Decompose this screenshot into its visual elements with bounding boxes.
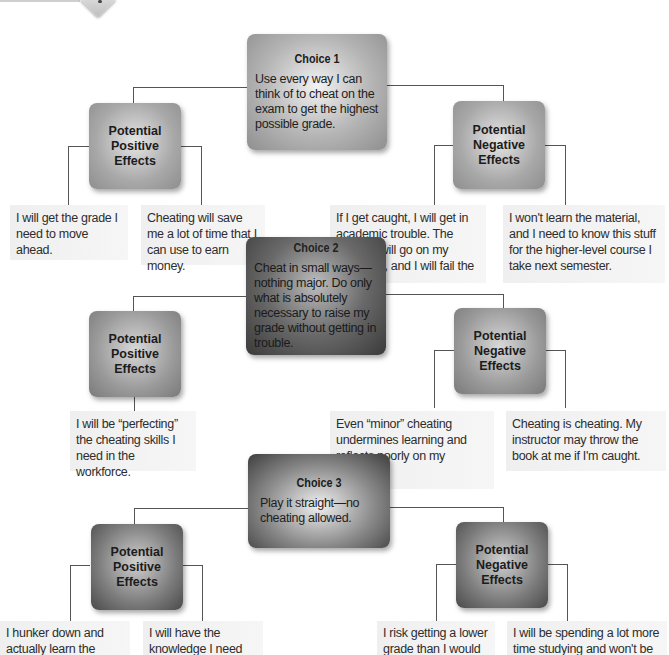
connector-line: [133, 87, 247, 88]
choice-description: Use every way I can think of to cheat on…: [255, 72, 379, 132]
effect-label: Effects: [116, 575, 158, 590]
effect-label: Positive: [111, 139, 159, 154]
connector-line: [180, 565, 202, 566]
effect-label: Potential: [111, 545, 164, 560]
connector-line: [503, 294, 504, 308]
effect-label: Effects: [479, 359, 521, 374]
connector-line: [202, 565, 203, 622]
connector-line: [434, 145, 454, 146]
effect-label: Potential: [109, 332, 162, 347]
connector-line: [70, 565, 71, 622]
choice-title: Choice 1: [294, 52, 339, 66]
effect-label: Potential: [476, 543, 529, 558]
connector-line: [134, 508, 248, 509]
connector-line: [503, 507, 504, 522]
negative-effects-box: Potential Negative Effects: [454, 308, 546, 394]
negative-effect-note: I won't learn the material, and I need t…: [503, 205, 665, 283]
connector-line: [180, 146, 202, 147]
effect-label: Effects: [481, 573, 523, 588]
connector-line: [436, 564, 437, 621]
negative-effect-note: Cheating is cheating. My instructor may …: [506, 411, 666, 471]
choice-2-box: Choice 2 Cheat in small ways—nothing maj…: [246, 237, 386, 355]
effect-label: Positive: [113, 560, 161, 575]
positive-effect-note: I will be “perfecting” the cheating skil…: [70, 411, 196, 471]
effect-label: Positive: [111, 347, 159, 362]
effect-label: Potential: [474, 329, 527, 344]
positive-effect-note: I will get the grade I need to move ahea…: [10, 205, 128, 260]
connector-line: [385, 85, 503, 86]
connector-line: [434, 145, 435, 205]
connector-line: [436, 564, 456, 565]
negative-effects-box: Potential Negative Effects: [456, 522, 548, 608]
connector-line: [68, 146, 69, 206]
negative-effect-note: I will be spending a lot more time study…: [507, 621, 667, 655]
connector-line: [68, 146, 90, 147]
effect-label: Effects: [114, 154, 156, 169]
connector-line: [567, 564, 568, 621]
connector-line: [546, 564, 567, 565]
connector-line: [388, 507, 503, 508]
connector-line: [385, 294, 503, 295]
connector-line: [133, 87, 134, 103]
positive-effects-box: Potential Positive Effects: [89, 103, 181, 189]
choice-description: Play it straight—no cheating allowed.: [256, 496, 382, 526]
effect-label: Negative: [473, 138, 525, 153]
effect-label: Effects: [114, 362, 156, 377]
connector-line: [70, 565, 90, 566]
connector-line: [545, 145, 565, 146]
positive-effect-note: I will have the knowledge I need for cou…: [143, 621, 263, 655]
connector-line: [201, 146, 202, 206]
effect-label: Negative: [476, 558, 528, 573]
connector-line: [133, 296, 134, 311]
effect-label: Potential: [473, 123, 526, 138]
choice-title: Choice 3: [296, 476, 341, 490]
connector-line: [545, 350, 565, 351]
effect-label: Potential: [109, 124, 162, 139]
negative-effects-box: Potential Negative Effects: [453, 101, 545, 189]
negative-effect-note: I risk getting a lower grade than I woul…: [377, 621, 495, 655]
positive-effects-box: Potential Positive Effects: [91, 524, 183, 610]
top-rule: [0, 0, 80, 2]
diamond-dot-icon: [98, 0, 102, 3]
connector-line: [134, 508, 135, 524]
positive-effects-box: Potential Positive Effects: [89, 311, 181, 397]
choice-3-box: Choice 3 Play it straight—no cheating al…: [248, 454, 390, 548]
choice-title: Choice 2: [293, 241, 338, 255]
connector-line: [133, 296, 247, 297]
effect-label: Negative: [474, 344, 526, 359]
effect-label: Effects: [478, 153, 520, 168]
choice-1-box: Choice 1 Use every way I can think of to…: [247, 34, 387, 150]
connector-line: [565, 350, 566, 408]
connector-line: [434, 350, 454, 351]
connector-line: [565, 145, 566, 205]
choice-description: Cheat in small ways—nothing major. Do on…: [254, 261, 378, 351]
positive-effect-note: I hunker down and actually learn the mat…: [0, 621, 130, 655]
connector-line: [434, 350, 435, 408]
